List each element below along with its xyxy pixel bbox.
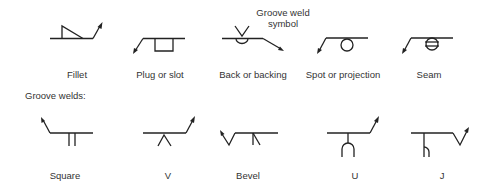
- callout-line-1: Groove weld: [250, 7, 316, 18]
- groove-welds-heading: Groove welds:: [25, 90, 86, 101]
- groove-weld-symbol-callout: Groove weld symbol: [250, 7, 316, 29]
- spot-or-projection-symbol: [317, 38, 368, 54]
- label-u: U: [352, 170, 359, 181]
- label-spot-or-projection: Spot or projection: [306, 69, 380, 80]
- label-fillet: Fillet: [67, 69, 87, 80]
- plug-or-slot-symbol: [133, 39, 185, 55]
- label-j: J: [440, 170, 445, 181]
- label-v: V: [165, 170, 171, 181]
- fillet-symbol: [50, 22, 103, 39]
- v-groove-symbol: [143, 116, 195, 146]
- u-groove-symbol: [327, 116, 379, 157]
- label-bevel: Bevel: [236, 170, 260, 181]
- back-or-backing-symbol: [222, 26, 284, 51]
- label-back-or-backing: Back or backing: [219, 69, 287, 80]
- callout-line-2: symbol: [250, 18, 316, 29]
- bevel-groove-symbol: [220, 130, 278, 145]
- square-groove-symbol: [41, 117, 93, 146]
- seam-symbol: [402, 38, 453, 54]
- label-plug-or-slot: Plug or slot: [136, 69, 184, 80]
- label-seam: Seam: [417, 69, 442, 80]
- j-groove-symbol: [411, 127, 469, 157]
- label-square: Square: [50, 170, 81, 181]
